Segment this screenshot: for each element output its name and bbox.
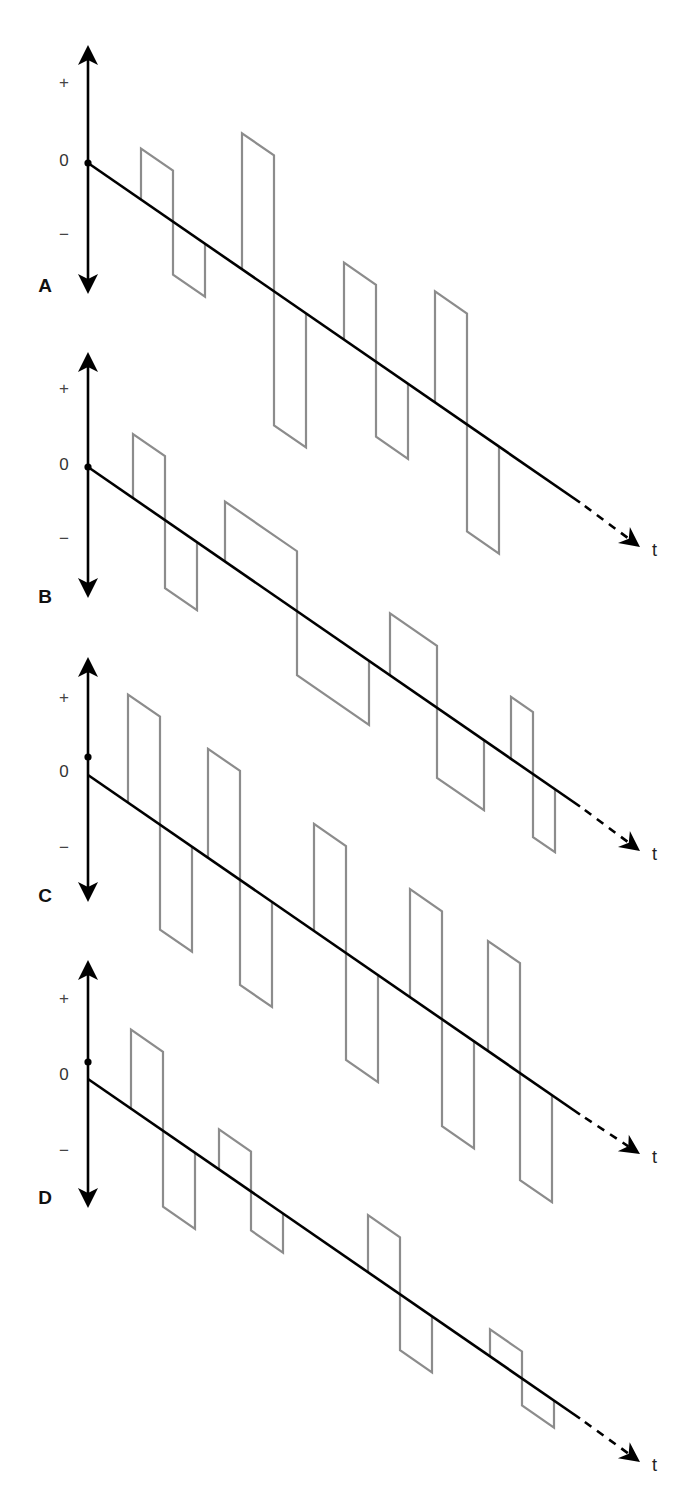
time-arrow-icon <box>618 527 640 547</box>
panel-label: C <box>38 885 52 906</box>
zero-label: 0 <box>59 151 68 170</box>
plus-label: + <box>59 688 69 707</box>
panel-d: +0−Dt <box>38 960 657 1475</box>
panels-container: +0−At+0−Bt+0−Ct+0−Dt <box>38 45 657 1475</box>
minus-label: − <box>59 1141 69 1160</box>
panel-c: +0−Ct <box>38 657 657 1202</box>
time-baseline <box>88 775 580 1114</box>
time-label: t <box>652 1147 657 1167</box>
biphasic-pulse <box>133 434 197 610</box>
panel-label: A <box>38 275 52 296</box>
zero-label: 0 <box>59 1065 68 1084</box>
plus-label: + <box>59 379 69 398</box>
pulse-train-figure: +0−At+0−Bt+0−Ct+0−Dt <box>0 0 690 1488</box>
time-label: t <box>652 1455 657 1475</box>
time-baseline-dashed <box>585 810 629 843</box>
origin-dot <box>84 1058 91 1065</box>
biphasic-pulse <box>208 749 272 1007</box>
time-baseline <box>88 467 580 806</box>
time-baseline-dashed <box>585 506 629 539</box>
panel-b: +0−Bt <box>38 352 657 864</box>
time-baseline-dashed <box>585 1118 628 1147</box>
minus-label: − <box>59 225 69 244</box>
plus-label: + <box>59 989 69 1008</box>
pulse-group <box>131 1030 554 1428</box>
time-arrow-icon <box>618 831 640 851</box>
time-arrow-icon <box>618 1135 640 1154</box>
time-label: t <box>652 540 657 560</box>
panel-label: B <box>38 586 52 607</box>
origin-dot <box>84 463 91 470</box>
biphasic-pulse <box>390 613 484 810</box>
plus-label: + <box>59 73 69 92</box>
time-baseline-dashed <box>585 1422 629 1454</box>
time-label: t <box>652 844 657 864</box>
origin-dot <box>84 159 91 166</box>
time-baseline <box>88 1079 580 1418</box>
time-baseline <box>88 163 580 502</box>
zero-label: 0 <box>59 762 68 781</box>
pulse-group <box>141 133 499 553</box>
minus-label: − <box>59 838 69 857</box>
panel-label: D <box>38 1187 52 1208</box>
zero-label: 0 <box>59 455 68 474</box>
panel-a: +0−At <box>38 45 657 560</box>
biphasic-pulse <box>435 291 499 553</box>
biphasic-pulse <box>225 502 369 725</box>
minus-label: − <box>59 529 69 548</box>
time-arrow-icon <box>618 1442 640 1462</box>
origin-dot <box>84 753 91 760</box>
